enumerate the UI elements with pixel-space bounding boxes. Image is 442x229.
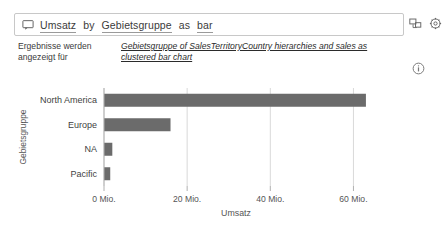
- result-description-label: Ergebnisse werden angezeigt für: [18, 41, 121, 63]
- x-tick-label: 0 Mio.: [92, 194, 115, 204]
- x-tick-label: 40 Mio.: [256, 194, 284, 204]
- bar[interactable]: [104, 118, 171, 131]
- y-category-label: Pacific: [70, 169, 97, 179]
- qna-search-bar[interactable]: Umsatz by Gebietsgruppe as bar: [14, 13, 404, 36]
- qna-speech-bubble-icon: [22, 19, 34, 31]
- qna-token-0: Umsatz: [40, 19, 76, 33]
- bar[interactable]: [104, 94, 366, 107]
- qna-token-4: bar: [197, 19, 212, 33]
- x-tick-label: 20 Mio.: [173, 194, 201, 204]
- y-category-label: NA: [84, 144, 97, 154]
- qna-query-text[interactable]: Umsatz by Gebietsgruppe as bar: [40, 18, 213, 32]
- result-description-link[interactable]: Gebietsgruppe of SalesTerritoryCountry h…: [121, 41, 393, 63]
- qna-action-buttons: [409, 17, 442, 30]
- y-category-label: North America: [40, 95, 97, 105]
- bar-chart-svg: 0 Mio.20 Mio.40 Mio.60 Mio.North America…: [0, 80, 439, 220]
- bar-chart: 0 Mio.20 Mio.40 Mio.60 Mio.North America…: [0, 80, 439, 220]
- y-category-label: Europe: [68, 120, 97, 130]
- bar[interactable]: [104, 167, 110, 180]
- settings-gear-icon[interactable]: [429, 17, 442, 30]
- result-description: Ergebnisse werden angezeigt für Gebietsg…: [18, 41, 418, 63]
- pin-visual-icon[interactable]: [409, 17, 422, 30]
- qna-token-3: as: [179, 19, 190, 31]
- qna-token-1: by: [83, 19, 94, 31]
- y-axis-title: Gebietsgruppe: [18, 109, 28, 164]
- bar[interactable]: [104, 143, 112, 156]
- x-tick-label: 60 Mio.: [339, 194, 367, 204]
- qna-token-2: Gebietsgruppe: [102, 19, 172, 33]
- x-axis-title: Umsatz: [221, 208, 251, 218]
- info-circle-icon[interactable]: [412, 62, 425, 75]
